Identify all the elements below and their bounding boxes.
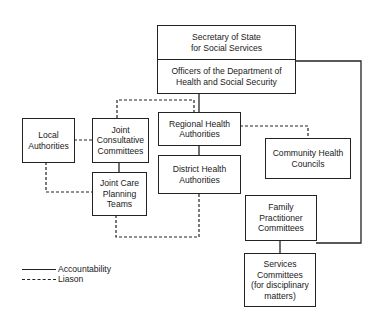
la-to-jcpt-liaison (46, 162, 92, 192)
node-joint-care-planning-teams: Joint Care Planning Teams (92, 172, 147, 216)
node-community-health-councils: Community Health Councils (265, 138, 351, 179)
legend-accountability-label: Accountability (58, 264, 111, 274)
dashed-line-swatch (22, 279, 56, 280)
node-local-authorities: Local Authorities (22, 118, 75, 163)
node-secretary-of-state: Secretary of State for Social Services (157, 25, 296, 60)
node-regional-health-authorities: Regional Health Authorities (158, 112, 241, 146)
legend-accountability: Accountability (22, 264, 111, 274)
legend-liaison-label: Liason (58, 274, 83, 284)
node-dhss-officers: Officers of the Department of Health and… (157, 59, 296, 94)
node-services-committees: Services Committees (for disciplinary ma… (244, 253, 316, 307)
solid-line-swatch (22, 269, 56, 270)
node-district-health-authorities: District Health Authorities (158, 155, 241, 194)
node-joint-consultative-committees: Joint Consultative Committees (92, 118, 149, 163)
node-family-practitioner-committees: Family Practitioner Committees (245, 195, 317, 241)
regional-to-chc-liaison (240, 126, 308, 138)
legend-liaison: Liason (22, 274, 83, 284)
